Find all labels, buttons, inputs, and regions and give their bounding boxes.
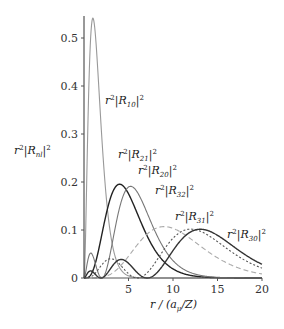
- label-R10: r2|R10|2: [105, 94, 144, 109]
- x-ticks: 5101520: [125, 278, 269, 296]
- label-R20: r2|R20|2: [138, 164, 177, 179]
- x-tick-label: 15: [211, 283, 225, 296]
- y-tick-label: 0.3: [61, 128, 79, 141]
- x-axis-title: r / (aμ/Z): [150, 298, 197, 313]
- label-R21: r2|R21|2: [118, 148, 157, 163]
- x-tick-label: 5: [125, 283, 132, 296]
- y-tick-label: 0.2: [61, 176, 79, 189]
- y-ticks: 00.10.20.30.40.5: [61, 32, 85, 285]
- label-R32: r2|R32|2: [155, 184, 194, 199]
- y-tick-label: 0: [71, 272, 78, 285]
- radial-probability-chart: 00.10.20.30.40.5 5101520 r2|R10|2r2|R21|…: [0, 0, 284, 329]
- x-tick-label: 10: [166, 283, 180, 296]
- curve-labels: r2|R10|2r2|R21|2r2|R20|2r2|R32|2r2|R31|2…: [105, 94, 266, 243]
- y-axis-title: r2|Rnl|2: [14, 144, 51, 159]
- y-tick-label: 0.4: [61, 80, 79, 93]
- curves: [84, 18, 262, 278]
- label-R31: r2|R31|2: [175, 210, 214, 225]
- y-tick-label: 0.5: [61, 32, 79, 45]
- y-tick-label: 0.1: [61, 224, 79, 237]
- x-tick-label: 20: [255, 283, 269, 296]
- curve-R10: [84, 18, 262, 278]
- label-R30: r2|R30|2: [227, 228, 266, 243]
